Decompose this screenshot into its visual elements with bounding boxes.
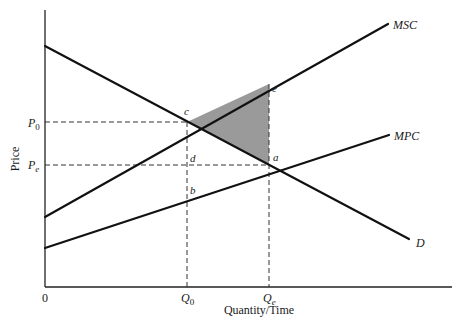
point-e-label: e [272,82,277,94]
mpc-curve [45,135,389,248]
demand-curve [45,46,409,239]
point-c-label: c [184,105,189,117]
deadweight-loss-region [187,84,269,165]
point-a-label: a [273,151,279,163]
msc-label: MSC [392,18,418,32]
point-d-label: d [190,152,196,164]
q0-label: Q0 [181,291,195,307]
origin-label: 0 [42,291,48,305]
point-b-label: b [190,184,196,196]
y-axis-title: Price [8,147,22,172]
demand-label: D [415,236,425,250]
mpc-label: MPC [393,129,420,143]
msc-curve [45,24,388,217]
x-axis-title: Quantity/Time [224,303,294,317]
pe-label: Pe [27,158,39,174]
p0-label: P0 [27,116,40,132]
externality-diagram: MSC MPC D c e a d b P0 Pe Price 0 Q0 Qe … [0,0,457,322]
